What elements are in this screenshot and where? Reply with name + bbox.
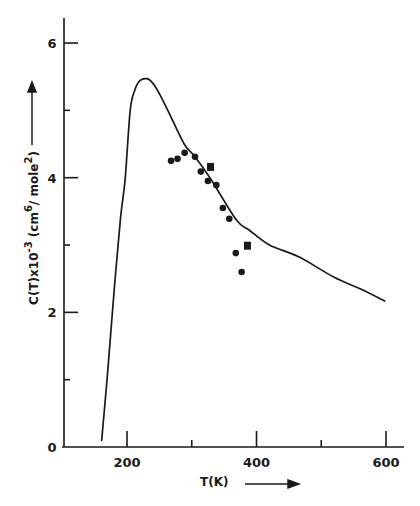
data-point-circle bbox=[220, 205, 227, 212]
data-point-circle bbox=[168, 158, 175, 165]
y-title-unit-exp6: 6 bbox=[23, 205, 34, 212]
data-point-square bbox=[244, 242, 251, 250]
svg-text:C(T)x10-3 (cm6/ mole2): C(T)x10-3 (cm6/ mole2) bbox=[23, 151, 41, 305]
data-point-circle bbox=[205, 178, 212, 185]
data-point-circle bbox=[174, 156, 181, 163]
data-point-circle bbox=[238, 269, 245, 276]
chart: 0246 200400600 C(T)x10-3 (cm6/ mole2) T(… bbox=[0, 0, 420, 506]
y-tick-label: 4 bbox=[47, 171, 56, 186]
x-tick-label: 400 bbox=[243, 455, 270, 470]
x-tick-label: 200 bbox=[113, 455, 140, 470]
data-point-circle bbox=[213, 182, 220, 189]
y-title-main: C(T)x10 bbox=[27, 252, 41, 304]
data-point-circle bbox=[226, 215, 233, 222]
axes bbox=[62, 18, 404, 447]
y-title-unit-exp2: 2 bbox=[23, 157, 34, 164]
y-tick-label: 2 bbox=[47, 305, 56, 320]
x-axis-title: T(K) bbox=[200, 475, 228, 489]
data-point-circle bbox=[198, 168, 205, 175]
y-title-unit-close: ) bbox=[27, 151, 41, 156]
data-point-square bbox=[207, 163, 214, 171]
x-ticks: 200400600 bbox=[113, 431, 399, 470]
y-tick-label: 0 bbox=[47, 440, 56, 455]
y-ticks: 0246 bbox=[47, 36, 78, 455]
y-axis-title: C(T)x10-3 (cm6/ mole2) bbox=[23, 151, 41, 305]
data-point-circle bbox=[181, 149, 188, 156]
x-axis-arrow-icon bbox=[245, 480, 299, 488]
y-axis-arrow-icon bbox=[28, 82, 36, 145]
data-points bbox=[168, 149, 251, 275]
y-tick-label: 6 bbox=[47, 36, 56, 51]
y-title-exp: -3 bbox=[23, 241, 34, 252]
data-point-circle bbox=[192, 154, 199, 161]
data-point-circle bbox=[232, 250, 239, 257]
y-title-unit-mid: / mole bbox=[27, 164, 41, 206]
x-tick-label: 600 bbox=[372, 455, 399, 470]
theory-curve-line bbox=[102, 79, 385, 441]
y-title-unit-open: (cm bbox=[27, 212, 41, 237]
